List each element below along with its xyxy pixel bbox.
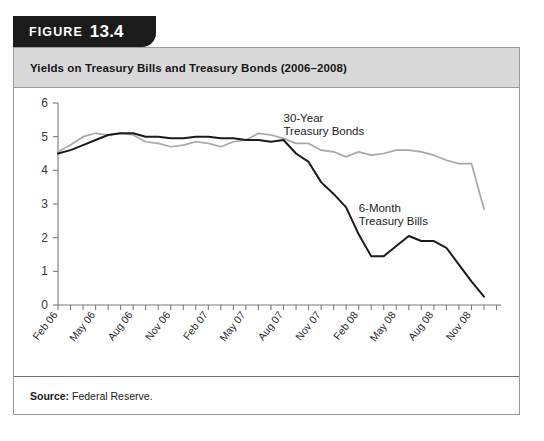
y-tick-label: 5 [41,130,48,144]
source-label: Source: [30,390,69,402]
y-tick-label: 1 [41,264,48,278]
figure-tab-word: FIGURE [29,25,83,39]
series-line [58,133,484,209]
x-tick-label: Feb 08 [331,309,361,342]
figure-number-tab: FIGURE 13.4 [13,16,156,47]
figure-header: Yields on Treasury Bills and Treasury Bo… [14,48,519,88]
chart-plot-area: 0123456Feb 06May 06Aug 06Nov 06Feb 07May… [14,89,519,377]
series-annotation-line1: 30-Year [284,112,324,124]
x-tick-label: May 06 [67,309,98,344]
x-tick-label: Aug 08 [405,309,435,343]
source-value: Federal Reserve. [72,390,153,402]
x-tick-label: Aug 06 [105,309,135,343]
y-tick-label: 6 [41,96,48,110]
x-tick-label: Feb 07 [180,309,210,342]
x-tick-label: May 08 [367,309,398,344]
x-tick-label: Nov 06 [142,309,172,343]
x-tick-label: Feb 06 [30,309,60,342]
figure-title: Yields on Treasury Bills and Treasury Bo… [14,62,347,74]
line-chart: 0123456Feb 06May 06Aug 06Nov 06Feb 07May… [14,89,519,377]
y-tick-label: 2 [41,231,48,245]
y-tick-label: 4 [41,163,48,177]
y-tick-label: 0 [41,298,48,312]
x-tick-label: Nov 07 [293,309,323,343]
figure-container: FIGURE 13.4 Yields on Treasury Bills and… [0,0,544,441]
source-text: Source: Federal Reserve. [14,390,153,402]
x-tick-label: Nov 08 [443,309,473,343]
series-annotation-line1: 6-Month [359,202,401,214]
x-tick-label: Aug 07 [255,309,285,343]
figure-tab-number: 13.4 [90,22,124,42]
figure-panel: Yields on Treasury Bills and Treasury Bo… [13,47,520,415]
series-annotation-line2: Treasury Bills [359,215,428,227]
figure-source: Source: Federal Reserve. [14,376,519,414]
y-tick-label: 3 [41,197,48,211]
x-tick-label: May 07 [217,309,248,344]
series-annotation-line2: Treasury Bonds [284,125,365,137]
